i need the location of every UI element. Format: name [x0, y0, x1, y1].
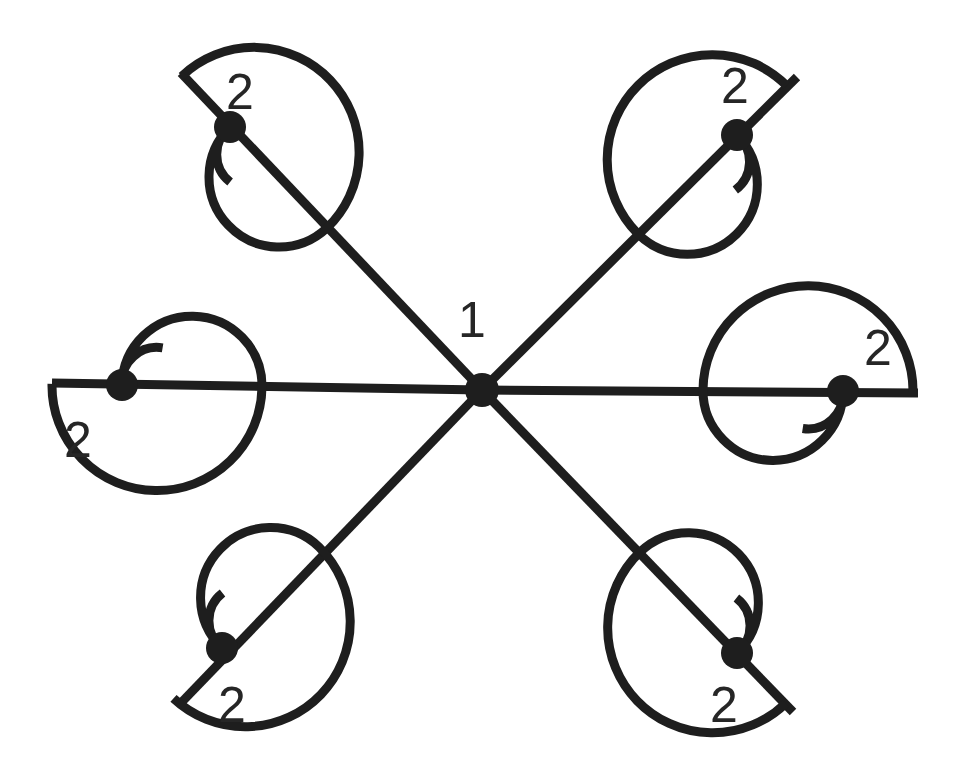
node-dot-left	[106, 369, 138, 401]
spiral-bottom-left	[174, 528, 351, 727]
arm-label-top-right: 2	[721, 61, 749, 111]
arm-label-top-left: 2	[226, 67, 254, 117]
arm-label-left: 2	[64, 415, 92, 465]
arm-label-bottom-right: 2	[710, 680, 738, 730]
hub-node-dot	[465, 373, 499, 407]
spiral-top-right	[607, 55, 787, 255]
hub-spoke-diagram	[0, 0, 978, 772]
spiral-top-left	[182, 47, 359, 247]
node-dot-bottom-right	[721, 637, 753, 669]
node-dot-top-right	[721, 119, 753, 151]
hub-label: 1	[458, 295, 486, 345]
node-dot-bottom-left	[206, 632, 238, 664]
arm-label-right: 2	[864, 323, 892, 373]
diagram-canvas: 1 2 2 2 2 2 2	[0, 0, 978, 772]
arm-label-bottom-left: 2	[218, 680, 246, 730]
spiral-bottom-right	[608, 533, 786, 733]
node-dot-right	[827, 375, 859, 407]
